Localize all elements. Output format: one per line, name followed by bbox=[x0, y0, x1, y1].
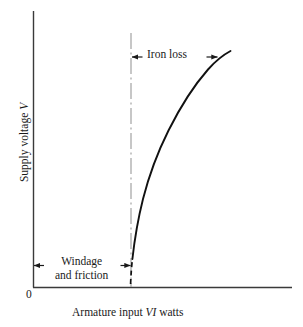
x-axis-label-symbol: VI bbox=[145, 306, 156, 318]
x-axis-label-suffix: watts bbox=[156, 306, 183, 318]
x-axis-label-prefix: Armature input bbox=[72, 306, 145, 318]
y-axis-label-symbol: V bbox=[18, 103, 30, 110]
iron-loss-annotation-label: Iron loss bbox=[147, 48, 187, 61]
windage-label-line-2: and friction bbox=[55, 269, 108, 283]
windage-label-line-1: Windage bbox=[55, 255, 108, 269]
figure-root: Iron loss Windage and friction Supply vo… bbox=[0, 0, 303, 327]
origin-label: 0 bbox=[26, 288, 32, 301]
curve-solid bbox=[132, 51, 230, 259]
y-axis-label-text: Supply voltage bbox=[18, 110, 30, 182]
x-axis-label: Armature input VI watts bbox=[72, 306, 183, 319]
windage-and-friction-annotation-label: Windage and friction bbox=[55, 255, 108, 282]
y-axis-label: Supply voltage V bbox=[18, 82, 31, 202]
